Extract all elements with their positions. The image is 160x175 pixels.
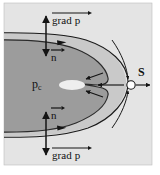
label-normal-bottom: n xyxy=(51,106,57,121)
label-grad-p-bottom-text: grad p xyxy=(52,150,80,161)
label-normal-bottom-text: n xyxy=(51,110,57,121)
label-normal-top: n xyxy=(51,48,57,63)
label-point-s: S xyxy=(138,66,145,78)
label-grad-p-bottom: grad p xyxy=(52,146,80,161)
notch-ellipse xyxy=(59,80,85,90)
label-grad-p-top-text: grad p xyxy=(52,15,80,26)
figure-container: grad p n pc n xyxy=(0,0,160,175)
label-pressure-core: pc xyxy=(32,78,42,92)
label-pressure-core-subscript: c xyxy=(38,83,42,92)
label-point-s-text: S xyxy=(138,65,145,79)
point-s-node xyxy=(127,81,135,89)
label-grad-p-top: grad p xyxy=(52,11,80,26)
label-normal-top-text: n xyxy=(51,52,57,63)
